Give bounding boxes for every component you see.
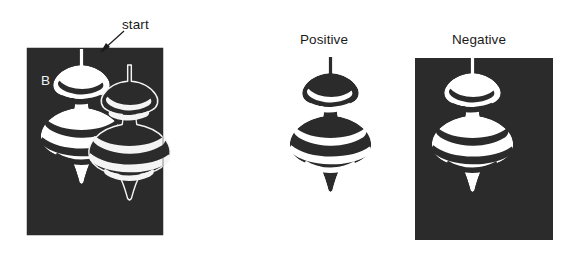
positive-vase-shape	[290, 57, 371, 192]
panel-positive	[290, 57, 371, 192]
panel-b-letter: B	[41, 74, 50, 88]
panel-negative	[415, 57, 553, 240]
negative-panel-label: Negative	[452, 33, 506, 47]
start-label: start	[122, 18, 149, 32]
positive-panel-label: Positive	[300, 33, 348, 47]
figure-canvas: start Positive Negative B	[0, 0, 564, 256]
